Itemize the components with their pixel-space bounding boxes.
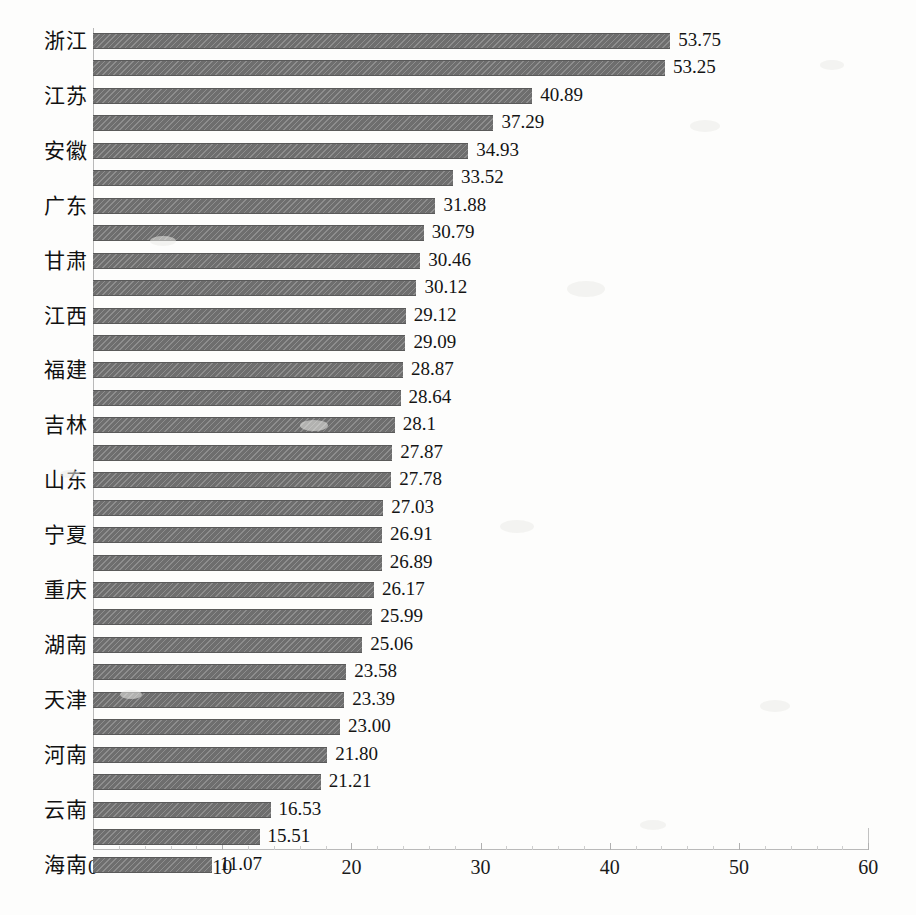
- bar: [93, 664, 346, 680]
- bar: [93, 280, 416, 296]
- bar-row: 53.25: [93, 55, 868, 83]
- bar-value-label: 34.93: [476, 137, 519, 163]
- bar-row: 28.87: [93, 357, 868, 385]
- bar-row: 34.93: [93, 138, 868, 166]
- bar-value-label: 53.25: [673, 54, 716, 80]
- bar-value-label: 15.51: [268, 823, 311, 849]
- bar: [93, 774, 321, 790]
- bar-row: 28.1: [93, 412, 868, 440]
- bar-row: 31.88: [93, 193, 868, 221]
- bar: [93, 692, 344, 708]
- y-axis-category-label: 江西: [2, 304, 88, 328]
- bar-value-label: 30.46: [428, 247, 471, 273]
- bar-row: 21.21: [93, 769, 868, 797]
- bar-value-label: 29.09: [413, 329, 456, 355]
- bar-row: 23.39: [93, 687, 868, 715]
- bar-row: 40.89: [93, 83, 868, 111]
- bar: [93, 417, 395, 433]
- y-axis-category-label: 河南: [2, 743, 88, 767]
- bar-row: 16.53: [93, 797, 868, 825]
- plot-area: 53.7553.2540.8937.2934.9333.5231.8830.79…: [93, 28, 868, 848]
- bar-row: 29.12: [93, 303, 868, 331]
- bar: [93, 143, 468, 159]
- bar-row: 26.89: [93, 550, 868, 578]
- bar-row: 23.00: [93, 714, 868, 742]
- bar: [93, 33, 670, 49]
- bar-value-label: 28.64: [409, 384, 452, 410]
- bar-row: 29.09: [93, 330, 868, 358]
- bar: [93, 582, 374, 598]
- bar: [93, 445, 392, 461]
- bar: [93, 335, 405, 351]
- bar: [93, 225, 424, 241]
- bar: [93, 170, 453, 186]
- y-axis-category-label: 安徽: [2, 139, 88, 163]
- y-axis-category-label: 湖南: [2, 633, 88, 657]
- bar-value-label: 26.89: [390, 549, 433, 575]
- bar: [93, 472, 391, 488]
- bar-row: 30.12: [93, 275, 868, 303]
- bar-value-label: 27.03: [391, 494, 434, 520]
- y-axis-category-label: 吉林: [2, 413, 88, 437]
- bar: [93, 362, 403, 378]
- y-axis-category-label: 重庆: [2, 578, 88, 602]
- bar: [93, 60, 665, 76]
- bar-row: 26.17: [93, 577, 868, 605]
- bar-row: 11.07: [93, 852, 868, 880]
- bar-value-label: 25.06: [370, 631, 413, 657]
- y-axis-category-label: 天津: [2, 688, 88, 712]
- bar: [93, 390, 401, 406]
- bar: [93, 609, 372, 625]
- x-tick-mark: [868, 843, 869, 850]
- bar-row: 30.46: [93, 248, 868, 276]
- bar-row: 15.51: [93, 824, 868, 852]
- bar: [93, 719, 340, 735]
- bar: [93, 527, 382, 543]
- y-axis-labels: 浙江江苏安徽广东甘肃江西福建吉林山东宁夏重庆湖南天津河南云南海南: [0, 28, 88, 848]
- y-axis-category-label: 宁夏: [2, 523, 88, 547]
- y-axis-category-label: 江苏: [2, 84, 88, 108]
- bar: [93, 637, 362, 653]
- bar-row: 37.29: [93, 110, 868, 138]
- bar-value-label: 16.53: [279, 796, 322, 822]
- bar-value-label: 27.87: [400, 439, 443, 465]
- y-axis-category-label: 广东: [2, 194, 88, 218]
- y-axis-category-label: 浙江: [2, 29, 88, 53]
- bar-value-label: 29.12: [414, 302, 457, 328]
- bar: [93, 747, 327, 763]
- bar: [93, 555, 382, 571]
- bar-row: 53.75: [93, 28, 868, 56]
- bar-value-label: 23.39: [352, 686, 395, 712]
- bar-value-label: 40.89: [540, 82, 583, 108]
- bar-value-label: 26.91: [390, 521, 433, 547]
- bar-value-label: 31.88: [443, 192, 486, 218]
- bar: [93, 802, 271, 818]
- bar: [93, 115, 493, 131]
- bar: [93, 829, 260, 845]
- bar-row: 30.79: [93, 220, 868, 248]
- bar-row: 33.52: [93, 165, 868, 193]
- bar-value-label: 33.52: [461, 164, 504, 190]
- bar-value-label: 21.21: [329, 768, 372, 794]
- bar: [93, 857, 212, 873]
- bar-row: 25.06: [93, 632, 868, 660]
- bar-value-label: 23.58: [354, 658, 397, 684]
- bar-value-label: 25.99: [380, 603, 423, 629]
- bar: [93, 500, 383, 516]
- bar-value-label: 37.29: [501, 109, 544, 135]
- bar-row: 25.99: [93, 604, 868, 632]
- bar: [93, 308, 406, 324]
- bar-value-label: 26.17: [382, 576, 425, 602]
- bar-value-label: 27.78: [399, 466, 442, 492]
- bar-chart: 浙江江苏安徽广东甘肃江西福建吉林山东宁夏重庆湖南天津河南云南海南 0102030…: [0, 0, 916, 915]
- bar-row: 23.58: [93, 659, 868, 687]
- bar-row: 27.78: [93, 467, 868, 495]
- bar-row: 21.80: [93, 742, 868, 770]
- bar-series: 53.7553.2540.8937.2934.9333.5231.8830.79…: [93, 28, 868, 848]
- bar-value-label: 28.87: [411, 356, 454, 382]
- y-axis-category-label: 甘肃: [2, 249, 88, 273]
- bar-row: 28.64: [93, 385, 868, 413]
- bar-row: 27.87: [93, 440, 868, 468]
- bar-value-label: 21.80: [335, 741, 378, 767]
- bar-value-label: 11.07: [220, 851, 262, 877]
